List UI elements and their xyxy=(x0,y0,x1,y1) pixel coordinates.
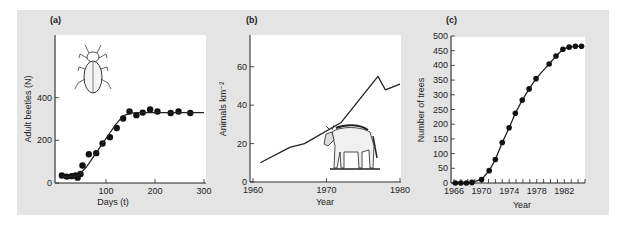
x-tick-label: 300 xyxy=(196,186,211,196)
data-point xyxy=(546,61,552,67)
panel-label-a: (a) xyxy=(50,15,61,25)
y-tick-label: 200 xyxy=(433,119,448,129)
x-axis-label-c: Year xyxy=(513,200,531,210)
data-point xyxy=(493,157,499,163)
panel-a-beetles: (a) 0200400100200300 Days (t) Adult beet… xyxy=(23,15,212,207)
data-point xyxy=(486,168,492,174)
y-tick-label: 400 xyxy=(433,60,448,70)
data-point xyxy=(506,125,512,131)
plot-area-b xyxy=(250,35,401,183)
panel-b-wildebeest: (b) 0204060196019701980 Year Animals km⁻… xyxy=(218,15,410,207)
y-tick-label: 300 xyxy=(433,90,448,100)
y-tick-label: 350 xyxy=(433,75,448,85)
panel-label-b: (b) xyxy=(246,15,258,25)
panel-label-c: (c) xyxy=(446,15,457,25)
y-tick-label: 0 xyxy=(47,178,52,188)
data-point xyxy=(79,162,85,168)
y-tick-label: 500 xyxy=(433,31,448,41)
data-point xyxy=(154,108,160,114)
x-axis-label-a: Days (t) xyxy=(97,197,129,207)
data-point xyxy=(469,180,475,186)
y-tick-label: 200 xyxy=(37,135,52,145)
plot-area-c xyxy=(452,37,585,183)
data-point xyxy=(519,97,525,103)
data-point xyxy=(86,151,92,157)
y-tick-label: 150 xyxy=(433,134,448,144)
y-tick-label: 250 xyxy=(433,105,448,115)
figure: (a) 0200400100200300 Days (t) Adult beet… xyxy=(0,0,625,225)
y-tick-label: 20 xyxy=(237,139,247,149)
data-point xyxy=(566,44,572,50)
data-point xyxy=(573,43,579,49)
y-tick-label: 60 xyxy=(237,62,247,72)
y-tick-label: 40 xyxy=(237,100,247,110)
data-point xyxy=(499,140,505,146)
data-point xyxy=(533,76,539,82)
y-tick-label: 450 xyxy=(433,46,448,56)
y-tick-label: 400 xyxy=(37,93,52,103)
x-tick-label: 1980 xyxy=(390,185,410,195)
x-tick-label: 1966 xyxy=(444,186,464,196)
y-tick-label: 100 xyxy=(433,149,448,159)
y-axis-label-b: Animals km⁻² xyxy=(218,82,228,137)
data-point xyxy=(560,46,566,52)
data-point xyxy=(526,86,532,92)
panel-c-trees: (c) 050100150200250300350400450500196619… xyxy=(416,15,585,210)
y-axis-label-c: Number of trees xyxy=(416,77,426,142)
x-tick-label: 1978 xyxy=(527,186,547,196)
data-point xyxy=(579,43,585,49)
x-axis-label-b: Year xyxy=(316,197,334,207)
x-tick-label: 1970 xyxy=(472,186,492,196)
data-point xyxy=(453,180,459,186)
data-point xyxy=(175,108,181,114)
data-point xyxy=(458,180,464,186)
x-tick-label: 1974 xyxy=(499,186,519,196)
data-point xyxy=(464,180,470,186)
data-point xyxy=(513,111,519,117)
x-tick-label: 100 xyxy=(98,186,113,196)
x-tick-label: 1970 xyxy=(316,185,336,195)
data-point xyxy=(479,177,485,183)
data-point xyxy=(147,106,153,112)
x-tick-label: 1982 xyxy=(554,186,574,196)
y-tick-label: 50 xyxy=(438,163,448,173)
x-tick-label: 200 xyxy=(147,186,162,196)
y-axis-label-a: Adult beetles (N) xyxy=(23,75,33,142)
x-tick-label: 1960 xyxy=(243,185,263,195)
data-point xyxy=(553,53,559,59)
